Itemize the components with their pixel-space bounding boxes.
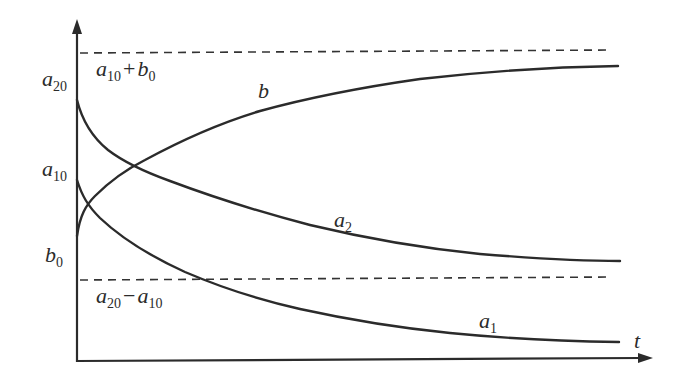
y-label-a10: a10 — [42, 158, 67, 184]
lower-asymptote-right-var: a — [137, 283, 148, 308]
lower-asymptote-left-var: a — [96, 283, 107, 308]
curve-label-a2-sub: 2 — [345, 220, 352, 235]
curve-label-b-var: b — [258, 78, 269, 103]
upper-asymptote-line — [80, 50, 612, 53]
y-label-a20-sub: 20 — [53, 79, 67, 94]
y-label-b0-sub: 0 — [56, 255, 63, 270]
x-axis — [76, 353, 653, 363]
lower-asymptote-right-sub: 10 — [148, 296, 162, 311]
lower-asymptote-label: a20−a10 — [96, 285, 162, 311]
y-label-b0-var: b — [45, 242, 56, 267]
x-axis-label-text: t — [634, 328, 640, 353]
curve-label-a1: a1 — [479, 310, 497, 336]
upper-asymptote-left-sub: 10 — [107, 69, 121, 84]
y-axis-arrow-icon — [72, 19, 82, 34]
curve-a1 — [77, 180, 619, 342]
y-label-b0: b0 — [45, 244, 63, 270]
upper-asymptote-right-var: b — [137, 56, 148, 81]
y-label-a10-sub: 10 — [53, 169, 67, 184]
curve-a2 — [77, 100, 620, 261]
curve-label-b: b — [258, 80, 269, 102]
upper-asymptote-right-sub: 0 — [148, 69, 155, 84]
lower-asymptote-operator: − — [123, 283, 135, 308]
upper-asymptote-label: a10+b0 — [96, 58, 155, 84]
lower-asymptote-left-sub: 20 — [107, 296, 121, 311]
upper-asymptote-operator: + — [123, 56, 135, 81]
lower-asymptote-line — [80, 277, 612, 280]
y-label-a10-var: a — [42, 156, 53, 181]
y-label-a20: a20 — [42, 68, 67, 94]
curve-label-a2: a2 — [334, 209, 352, 235]
curve-label-a1-var: a — [479, 308, 490, 333]
x-axis-arrow-icon — [638, 353, 653, 363]
upper-asymptote-left-var: a — [96, 56, 107, 81]
x-axis-label: t — [634, 330, 640, 352]
curve-label-a2-var: a — [334, 207, 345, 232]
curve-label-a1-sub: 1 — [490, 321, 497, 336]
y-label-a20-var: a — [42, 66, 53, 91]
